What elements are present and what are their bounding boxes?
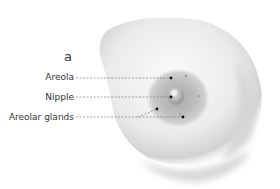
label-areola: Areola bbox=[45, 72, 74, 82]
panel-letter: a bbox=[64, 49, 72, 64]
label-nipple: Nipple bbox=[45, 92, 74, 102]
breast-illustration bbox=[0, 0, 280, 189]
label-areolar-glands: Areolar glands bbox=[9, 112, 74, 122]
breast-anatomy-diagram: a Areola Nipple Areolar glands bbox=[0, 0, 280, 189]
